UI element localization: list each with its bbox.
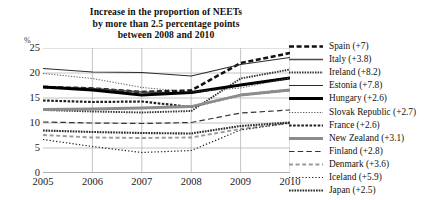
legend-item[interactable]: Japan (+2.5) — [288, 184, 428, 197]
x-tick-label: 2005 — [22, 176, 64, 187]
x-axis-tick-labels: 200520062007200820092010 — [43, 176, 290, 192]
legend-item[interactable]: Denmark (+3.6) — [288, 158, 428, 171]
legend-item-label: Italy (+3.8) — [329, 54, 371, 65]
x-tick-label: 2009 — [220, 176, 262, 187]
legend-line-swatch — [288, 146, 324, 157]
legend-line-swatch — [288, 93, 324, 104]
legend-item-label: Denmark (+3.6) — [329, 159, 389, 170]
legend-item[interactable]: Estonia (+7.8) — [288, 79, 428, 92]
legend-item-label: Hungary (+2.6) — [329, 93, 387, 104]
y-tick-label: 25 — [18, 43, 40, 53]
legend-item-label: Finland (+2.8) — [329, 146, 383, 157]
series-line-denmark — [43, 123, 290, 138]
legend-line-swatch — [288, 41, 324, 52]
legend-item[interactable]: Hungary (+2.6) — [288, 92, 428, 105]
legend-line-swatch — [288, 172, 324, 183]
legend-line-swatch — [288, 185, 324, 196]
x-tick-label: 2008 — [170, 176, 212, 187]
legend-item[interactable]: Italy (+3.8) — [288, 53, 428, 66]
plot-svg — [43, 48, 290, 173]
x-tick-label: 2006 — [71, 176, 113, 187]
plot-area — [43, 48, 290, 173]
y-axis-tick-labels: 0510152025 — [14, 0, 40, 200]
legend-item-label: Spain (+7) — [329, 41, 369, 52]
legend-line-swatch — [288, 133, 324, 144]
y-tick-label: 15 — [18, 93, 40, 103]
chart-legend: Spain (+7)Italy (+3.8)Ireland (+8.2)Esto… — [288, 40, 428, 197]
legend-item-label: Ireland (+8.2) — [329, 67, 381, 78]
legend-item-label: France (+2.6) — [329, 120, 380, 131]
legend-line-swatch — [288, 80, 324, 91]
legend-line-swatch — [288, 54, 324, 65]
legend-item[interactable]: New Zealand (+3.1) — [288, 132, 428, 145]
chart-title-line-2: by more than 2.5 percentage points — [46, 18, 286, 30]
legend-item-label: Iceland (+5.9) — [329, 172, 382, 183]
y-tick-label: 5 — [18, 143, 40, 153]
legend-item-label: Slovak Republic (+2.7) — [329, 107, 416, 118]
legend-line-swatch — [288, 67, 324, 78]
legend-item-label: Estonia (+7.8) — [329, 80, 382, 91]
legend-item[interactable]: Slovak Republic (+2.7) — [288, 105, 428, 118]
legend-item[interactable]: France (+2.6) — [288, 119, 428, 132]
legend-item[interactable]: Spain (+7) — [288, 40, 428, 53]
chart-figure: Increase in the proportion of NEETs by m… — [0, 0, 428, 200]
y-tick-label: 20 — [18, 68, 40, 78]
legend-item-label: New Zealand (+3.1) — [329, 133, 404, 144]
legend-line-swatch — [288, 120, 324, 131]
legend-item[interactable]: Ireland (+8.2) — [288, 66, 428, 79]
y-tick-label: 10 — [18, 118, 40, 128]
chart-title-line-1: Increase in the proportion of NEETs — [46, 6, 286, 18]
legend-line-swatch — [288, 107, 324, 118]
legend-item[interactable]: Finland (+2.8) — [288, 145, 428, 158]
legend-item[interactable]: Iceland (+5.9) — [288, 171, 428, 184]
chart-title-line-3: between 2008 and 2010 — [46, 29, 286, 41]
chart-title: Increase in the proportion of NEETs by m… — [46, 6, 286, 41]
series-line-spain — [43, 53, 290, 92]
legend-line-swatch — [288, 159, 324, 170]
x-tick-label: 2007 — [121, 176, 163, 187]
legend-item-label: Japan (+2.5) — [329, 185, 376, 196]
